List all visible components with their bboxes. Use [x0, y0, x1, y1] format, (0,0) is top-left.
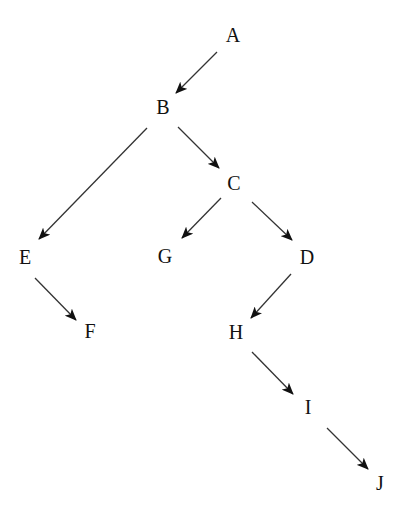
edge-e-f-arrow-icon [35, 278, 76, 320]
node-c: C [227, 173, 240, 193]
node-h: H [229, 322, 243, 342]
node-e: E [19, 247, 31, 267]
edge-c-d-arrow-icon [252, 202, 292, 240]
edge-b-c-arrow-icon [178, 127, 219, 168]
edge-c-g-arrow-icon [182, 198, 221, 238]
edge-i-j-arrow-icon [327, 428, 368, 469]
edge-b-e-arrow-icon [39, 128, 147, 239]
node-f: F [84, 321, 95, 341]
edge-layer [0, 0, 400, 514]
edge-h-i-arrow-icon [252, 352, 293, 394]
node-d: D [300, 247, 314, 267]
node-g: G [158, 246, 172, 266]
edges [35, 52, 368, 469]
node-b: B [156, 97, 169, 117]
node-j: J [376, 473, 384, 493]
node-a: A [226, 25, 240, 45]
tree-diagram: ABCEGDFHIJ [0, 0, 400, 514]
node-i: I [305, 397, 312, 417]
edge-a-b-arrow-icon [176, 52, 217, 93]
edge-d-h-arrow-icon [251, 274, 291, 318]
